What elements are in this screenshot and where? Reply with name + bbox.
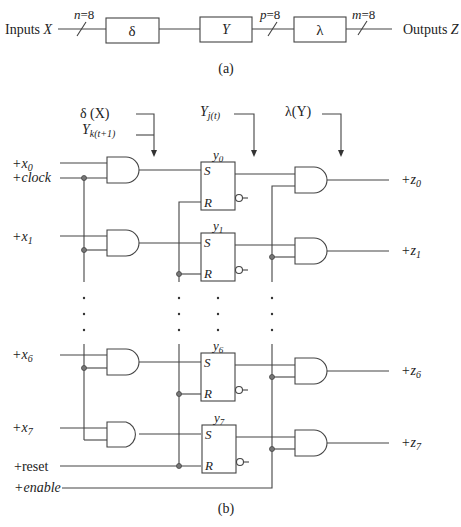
ff-y0-label: y0 [211,147,224,164]
output-z7-label: +z7 [401,435,422,452]
and-gate-input-1 [107,230,139,256]
caption-a: (a) [218,61,234,77]
reset-bus-upper [179,202,201,282]
outputs-label: Outputs Z [403,22,459,37]
and-gate-output-6 [295,358,327,384]
ff-y7-qbar-bubble-icon [237,459,244,466]
ff-y1-qbar-bubble-icon [236,267,243,274]
reset-junction-7 [177,464,182,469]
ellipsis-dots [83,297,273,331]
ff-y7-label: y7 [212,410,225,427]
lambda-y-annotation: λ(Y) [285,104,312,120]
inputs-label: Inputs X [5,22,53,37]
and-gate-output-1 [295,238,327,264]
input-x7-label: +x7 [12,420,34,437]
yk-annotation: Yk(t+1) [82,122,116,140]
clock-junction-0 [82,176,87,181]
flipflop-y1: y1 S R [201,218,248,281]
reset-junction-1 [177,272,182,277]
logic-diagram-b: δ (X) Yk(t+1) Yj(t) λ(Y) +x0 +clock +x1 … [12,104,422,517]
and-gate-output-7 [295,430,327,456]
output-z1-label: +z1 [401,243,421,260]
and-gate-input-0 [107,157,139,183]
ff-y6-label: y6 [211,338,224,355]
bus-width-p: p=8 [259,7,280,22]
lambda-arrow-head-icon [338,150,344,157]
input-reset-label: +reset [14,459,48,474]
flipflop-y7: y7 S R [202,410,249,473]
flipflop-y6: y6 S R [201,338,248,401]
ff-y0-s: S [204,163,211,178]
ff-y1-r: R [203,266,212,281]
ff-y6-s: S [204,355,211,370]
enable-junction-1 [270,255,275,260]
and-gate-input-6 [107,349,139,375]
clock-junction-6 [82,366,87,371]
delta-block-label: δ [128,23,135,39]
input-enable-label: +enable [14,480,61,495]
bus-width-n: n=8 [74,7,94,22]
ff-y1-s: S [204,235,211,250]
ff-y1-label: y1 [211,218,223,235]
ff-y0-qbar-bubble-icon [236,195,243,202]
enable-wire [62,400,272,488]
output-z0-label: +z0 [401,172,421,189]
input-clock-label: +clock [12,170,52,185]
delta-x-annotation: δ (X) [80,106,110,122]
clock-junction-1 [82,248,87,253]
ff-y6-r: R [203,386,212,401]
bus-width-m: m=8 [352,7,375,22]
output-z6-label: +z6 [401,363,421,380]
enable-junction-7 [270,447,275,452]
delta-arrow-head-icon [151,150,157,157]
enable-junction-6 [270,375,275,380]
input-x1-label: +x1 [12,229,33,246]
yj-arrow-head-icon [251,150,257,157]
reset-junction-6 [177,392,182,397]
sequential-machine-diagram: Inputs X n=8 δ Y p=8 λ m=8 Outputs Z (a)… [0,0,461,527]
ff-y0-r: R [203,195,212,210]
lambda-arrow-line [322,114,341,150]
yj-arrow-line [234,114,254,150]
block-diagram-a: Inputs X n=8 δ Y p=8 λ m=8 Outputs Z (a) [5,7,459,77]
ff-y7-r: R [204,458,213,473]
ff-y6-qbar-bubble-icon [236,387,243,394]
caption-b: (b) [218,501,235,517]
delta-arrow-line [136,114,154,150]
and-gate-output-0 [295,167,327,193]
yj-annotation: Yj(t) [200,104,221,122]
lambda-block-label: λ [316,22,324,38]
ff-y7-s: S [205,427,212,442]
and-gate-input-7 [107,422,135,447]
bus-slash-m [358,21,367,35]
enable-bus-upper [272,186,295,282]
flipflop-y0: y0 S R [201,147,248,210]
input-x6-label: +x6 [12,347,33,364]
